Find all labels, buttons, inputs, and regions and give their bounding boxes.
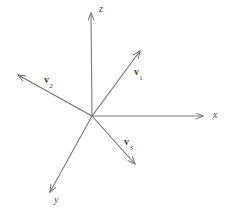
vector-label-v2: v2: [44, 75, 53, 88]
vector-diagram-canvas: [0, 0, 227, 215]
vectors-group: [18, 51, 140, 164]
vector-v1-line: [92, 51, 140, 116]
axis-label-z: z: [99, 4, 103, 14]
vector-label-v3: v3: [124, 137, 133, 150]
vector-label-v1-subscript: 1: [139, 74, 143, 82]
vector-label-v3-subscript: 3: [129, 144, 133, 152]
vector-label-v2-subscript: 2: [49, 82, 53, 90]
y-axis-line: [50, 116, 92, 192]
vector-label-v1: v1: [134, 67, 143, 80]
vector-diagram-figure: z x y v1 v2 v3: [0, 0, 227, 215]
vector-v2-line: [18, 75, 92, 116]
z-axis-line: [91, 13, 92, 116]
axis-label-y: y: [54, 195, 58, 205]
axis-label-x: x: [213, 110, 217, 120]
axes-group: [50, 13, 203, 192]
